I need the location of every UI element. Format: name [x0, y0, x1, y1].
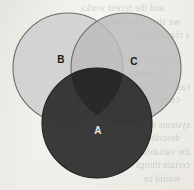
venn-label-a: A [94, 126, 102, 136]
figure-page: and the recent workswe shall consider in… [0, 0, 194, 190]
venn-diagram [0, 0, 194, 190]
venn-label-b: B [57, 55, 65, 65]
venn-label-c: C [130, 57, 138, 67]
